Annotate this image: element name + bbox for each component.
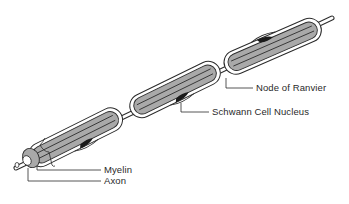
label-schwann-cell-nucleus: Schwann Cell Nucleus [212,106,309,117]
leader-node-of-ranvier [226,78,253,88]
schwann-cell-segment-1 [25,104,128,173]
label-myelin: Myelin [104,164,132,175]
leader-myelin [37,166,101,170]
schwann-cell-segment-3 [219,13,325,78]
schwann-cell-segment-2 [126,57,225,123]
leader-schwann-nucleus [181,103,209,112]
myelinated-axon-diagram [0,0,349,204]
label-axon: Axon [104,175,126,186]
label-node-of-ranvier: Node of Ranvier [256,82,326,93]
